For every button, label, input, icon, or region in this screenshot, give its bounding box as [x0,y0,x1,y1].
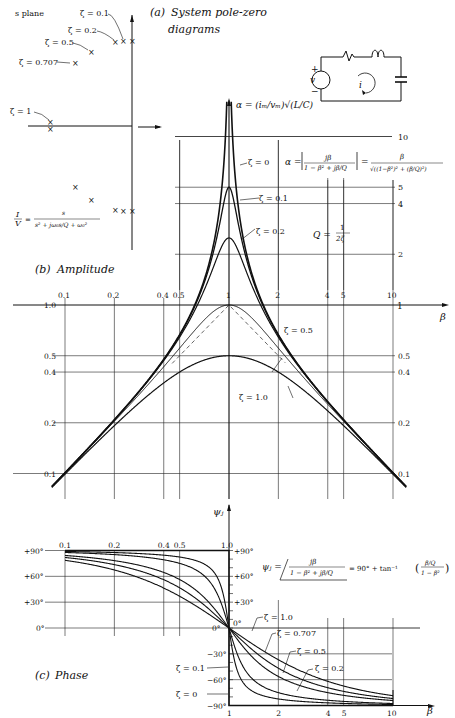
svg-text:): ) [445,562,449,575]
svg-text:0.4: 0.4 [44,368,56,377]
phase-beta-label: β [426,705,433,716]
svg-text:=: = [361,157,369,167]
svg-text:×: × [129,37,136,46]
amp-label-zeta-0.1: ζ = 0.1 [259,194,288,203]
svg-text:0°: 0° [212,624,221,633]
svg-text:=: = [25,216,31,224]
svg-text:(: ( [415,562,419,575]
svg-text:0.5: 0.5 [174,541,186,550]
amp-beta-label: β [439,311,446,322]
pole-label-0.707: ζ = 0.707 [19,58,58,67]
svg-text:4: 4 [326,709,331,718]
svg-text:0.5: 0.5 [173,291,185,300]
svg-text:−90°: −90° [207,702,227,711]
svg-text:10: 10 [387,291,397,300]
phase-label-zeta-1.0: ζ = 1.0 [264,613,293,622]
panel-a-title-1: System pole-zero [171,6,267,19]
phase-formula: ψⱼ = jβ 1 − β² + jβ/Q = 90° + tan⁻¹ ( β/… [262,558,449,580]
svg-text:1.0: 1.0 [44,301,56,310]
panel-a-label: (a) [150,6,165,19]
amp-label-zeta-0.2: ζ = 0.2 [256,227,285,236]
svg-text:0.2: 0.2 [107,291,119,300]
svg-text:5: 5 [398,183,403,192]
pole-label-0.2: ζ = 0.2 [68,26,97,35]
pole-label-0.5: ζ = 0.5 [45,38,74,47]
amplitude-plot: 0.10.20.40.5124510105421.010.50.50.40.40… [13,100,449,499]
svg-text:×: × [88,48,95,57]
svg-text:+30°: +30° [24,598,44,607]
svg-text:s: s [62,209,65,216]
phase-label-zeta-0.707: ζ = 0.707 [277,629,316,638]
pole-label-1: ζ = 1 [10,107,31,116]
svg-text:×: × [88,196,95,205]
svg-text:10: 10 [398,133,408,142]
svg-text:0.2: 0.2 [44,419,56,428]
svg-text:ψⱼ =: ψⱼ = [262,562,282,572]
phase-label-zeta-0.1: ζ = 0.1 [176,664,205,673]
svg-text:Q =: Q = [313,230,331,240]
source-minus: − [311,86,319,96]
svg-text:1: 1 [340,224,344,232]
svg-text:jβ: jβ [308,558,316,566]
svg-text:s² + jω₀s/Q + ω₀²: s² + jω₀s/Q + ω₀² [35,221,88,229]
svg-text:0.1: 0.1 [58,291,70,300]
pole-label-0.1: ζ = 0.1 [80,9,109,18]
svg-text:0.4: 0.4 [398,368,410,377]
svg-text:10: 10 [387,709,397,718]
svg-text:×: × [72,183,79,192]
s-plane-label: s plane [15,9,44,18]
imag-axis-arrow-icon [130,15,134,22]
svg-text:2: 2 [398,250,403,259]
svg-text:5: 5 [341,291,346,300]
svg-text:×: × [129,207,136,216]
amp-label-zeta-0.5: ζ = 0.5 [284,326,313,335]
svg-text:+90°: +90° [24,547,44,556]
svg-text:√((1−β²)² + (β/Q)²): √((1−β²)² + (β/Q)²) [370,165,427,173]
svg-text:V: V [15,219,22,228]
phase-label-zeta-0.2: ζ = 0.2 [315,664,344,673]
svg-text:+60°: +60° [234,572,254,581]
alpha-definition: α = (iₘ/vₘ)√(L/C) [236,100,314,110]
svg-text:β/Q: β/Q [424,559,435,567]
svg-text:2: 2 [276,709,281,718]
svg-text:×: × [120,207,127,216]
svg-text:1.0: 1.0 [221,541,233,550]
svg-text:×: × [47,125,54,134]
svg-text:1: 1 [227,709,232,718]
svg-text:0.4: 0.4 [157,291,169,300]
current-label: i [359,80,362,90]
svg-text:+90°: +90° [234,547,254,556]
phase-label-zeta-0.5: ζ = 0.5 [297,647,326,656]
svg-text:= 90° + tan⁻¹: = 90° + tan⁻¹ [349,565,398,573]
real-axis-arrow-icon [155,125,162,129]
panel-b-title: Amplitude [56,263,115,276]
amp-label-zeta-1.0: ζ = 1.0 [239,393,268,402]
svg-text:−30°: −30° [207,650,227,659]
transfer-function: I V = s s² + jω₀s/Q + ω₀² [14,209,100,229]
svg-text:5: 5 [342,709,347,718]
panel-c-title: Phase [54,669,89,682]
svg-text:+60°: +60° [24,572,44,581]
amplitude-formula: α = jβ 1 − β² + jβ/Q = β √((1−β²)² + (β/… [285,152,443,173]
svg-text:0.5: 0.5 [398,352,410,361]
svg-text:0.2: 0.2 [398,419,410,428]
panel-c-label: (c) [35,669,50,682]
phase-label-zeta-0: ζ = 0 [176,690,197,699]
svg-text:β: β [399,153,404,161]
svg-text:4: 4 [325,291,330,300]
svg-text:1 − β² + jβ/Q: 1 − β² + jβ/Q [304,164,348,172]
psi-axis-label: ψⱼ [213,506,224,517]
svg-text:0.1: 0.1 [44,470,56,479]
svg-text:+30°: +30° [234,598,254,607]
svg-text:0°: 0° [36,624,45,633]
svg-text:×: × [112,206,119,215]
panel-b-label: (b) [35,263,51,276]
svg-text:0.2: 0.2 [108,541,120,550]
svg-text:−60°: −60° [207,676,227,685]
source-plus: + [311,64,319,74]
svg-text:1 − β² + jβ/Q: 1 − β² + jβ/Q [290,569,334,577]
svg-text:jβ: jβ [323,154,331,162]
amp-label-zeta-0: ζ = 0 [248,158,269,167]
svg-text:1: 1 [226,291,231,300]
resonance-figure: s plane (a) System pole-zero diagrams ××… [0,0,455,718]
